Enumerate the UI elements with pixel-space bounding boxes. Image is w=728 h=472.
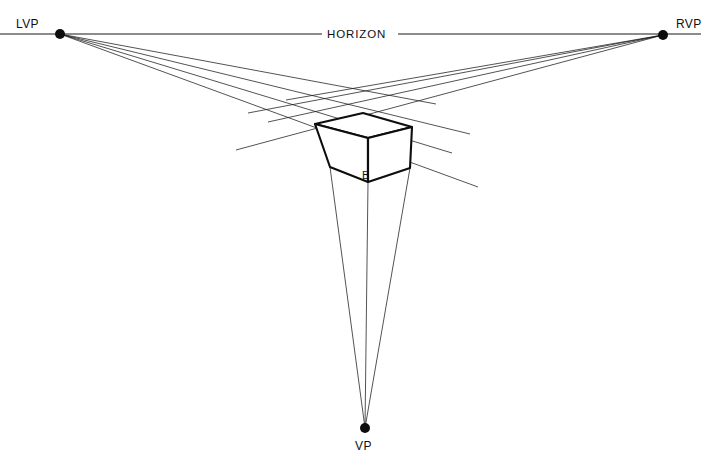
rvp-label: RVP — [676, 17, 702, 31]
perspective-diagram: LVP RVP VP HORIZON B — [0, 0, 728, 472]
vp-label: VP — [355, 439, 372, 453]
cube-corner-b-label: B — [362, 169, 369, 181]
left-vanishing-point-dot — [55, 29, 65, 39]
perspective-drawing-canvas: LVP RVP VP HORIZON B — [0, 0, 728, 472]
right-vanishing-point-dot — [658, 30, 668, 40]
horizon-label: HORIZON — [327, 28, 386, 40]
vertical-vanishing-point-dot — [360, 423, 370, 433]
canvas-background — [0, 0, 728, 472]
lvp-label: LVP — [16, 17, 39, 31]
